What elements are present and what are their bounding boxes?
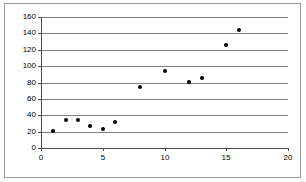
plot-area: [41, 17, 288, 148]
y-axis-tick: [38, 115, 41, 116]
x-axis-tick-label: 5: [101, 154, 105, 162]
x-axis-tick: [165, 148, 166, 151]
y-axis-tick: [38, 17, 41, 18]
data-point: [237, 28, 241, 32]
data-point: [64, 118, 68, 122]
x-axis-tick-label: 20: [284, 154, 293, 162]
y-axis-tick: [38, 66, 41, 67]
data-point: [138, 85, 142, 89]
y-axis-tick-label: 0: [32, 144, 36, 152]
y-axis-tick-label: 20: [27, 128, 36, 136]
x-axis-tick: [103, 148, 104, 151]
data-point: [163, 69, 167, 73]
y-axis-tick-label: 140: [23, 29, 36, 37]
y-axis-line: [41, 17, 42, 148]
x-axis-labels: 05101520: [41, 148, 288, 168]
y-axis-tick: [38, 99, 41, 100]
y-axis-tick: [38, 132, 41, 133]
gridline-y: [41, 99, 288, 100]
y-axis-tick-label: 60: [27, 95, 36, 103]
gridline-y: [41, 50, 288, 51]
gridline-y: [41, 132, 288, 133]
data-point: [224, 43, 228, 47]
gridline-y: [41, 115, 288, 116]
x-axis-tick-label: 0: [39, 154, 43, 162]
data-point: [76, 118, 80, 122]
gridline-y: [41, 83, 288, 84]
x-axis-tick: [226, 148, 227, 151]
x-axis-tick-label: 10: [161, 154, 170, 162]
y-axis-tick-label: 80: [27, 79, 36, 87]
screenshot-root: 020406080100120140160 05101520: [0, 0, 306, 182]
gridline-y: [41, 66, 288, 67]
y-axis-tick-label: 160: [23, 13, 36, 21]
gridline-y: [41, 33, 288, 34]
data-point: [101, 127, 105, 131]
y-axis-tick: [38, 50, 41, 51]
y-axis-tick-label: 120: [23, 46, 36, 54]
scatter-chart: 020406080100120140160 05101520: [0, 0, 306, 182]
y-axis-tick-label: 100: [23, 62, 36, 70]
y-axis-tick-label: 40: [27, 111, 36, 119]
gridline-y: [41, 17, 288, 18]
x-axis-tick: [288, 148, 289, 151]
data-point: [88, 124, 92, 128]
x-axis-tick: [41, 148, 42, 151]
data-point: [187, 80, 191, 84]
y-axis-tick: [38, 83, 41, 84]
data-point: [113, 120, 117, 124]
y-axis-tick: [38, 33, 41, 34]
data-point: [200, 76, 204, 80]
x-axis-tick-label: 15: [222, 154, 231, 162]
